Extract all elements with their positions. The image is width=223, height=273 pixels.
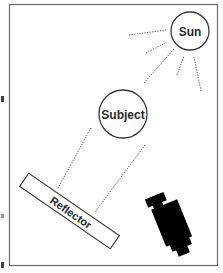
- gutter-mark: [1, 214, 4, 218]
- sun-label: Sun: [179, 25, 202, 39]
- sun: Sun: [171, 12, 209, 50]
- subject: Subject: [99, 90, 147, 138]
- diagram-canvas: Sun Subject Reflector: [0, 0, 223, 273]
- lighting-diagram: Sun Subject Reflector: [0, 0, 223, 273]
- gutter-mark: [1, 96, 4, 102]
- gutter-mark: [1, 262, 4, 268]
- subject-label: Subject: [101, 108, 144, 122]
